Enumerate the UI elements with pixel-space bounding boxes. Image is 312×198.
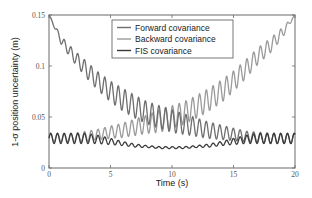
y-tick-label: 0 [41,164,45,173]
line-chart: 0510152000.050.10.15 Time (s) 1-σ positi… [0,0,312,198]
legend-label-forward: Forward covariance [135,23,210,33]
legend: Forward covariance Backward covariance F… [112,20,233,58]
y-tick-label: 0.1 [36,62,46,71]
x-tick-label: 0 [47,170,51,179]
y-tick-label: 0.05 [32,113,45,122]
legend-label-backward: Backward covariance [135,34,216,44]
x-tick-label: 20 [291,170,299,179]
legend-label-fis: FIS covariance [135,46,192,56]
x-tick-label: 5 [109,170,113,179]
y-axis-label: 1-σ position uncertainty (m) [10,37,20,147]
x-axis-label: Time (s) [156,178,189,188]
y-tick-label: 0.15 [32,11,45,20]
x-tick-label: 15 [230,170,238,179]
